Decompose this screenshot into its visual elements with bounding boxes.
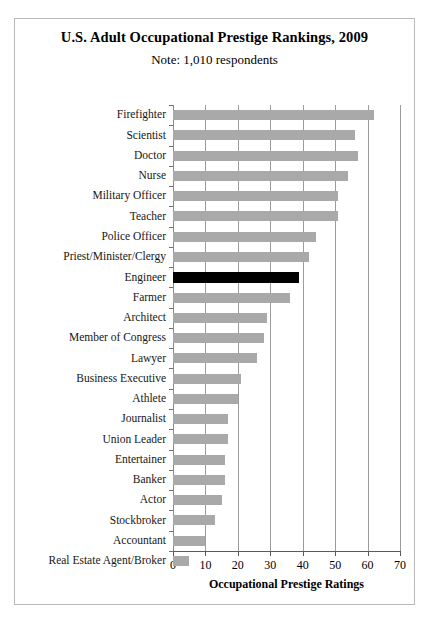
- bar-row: Firefighter: [173, 105, 400, 125]
- x-tick-label: 50: [329, 558, 341, 573]
- x-tick: [400, 551, 401, 556]
- bar-row: Nurse: [173, 166, 400, 186]
- category-label: Business Executive: [76, 373, 166, 385]
- bar-row: Engineer: [173, 267, 400, 287]
- bar-row: Entertainer: [173, 450, 400, 470]
- x-tick-label: 40: [297, 558, 309, 573]
- bar: [173, 434, 228, 444]
- y-tick: [169, 146, 173, 147]
- bar: [173, 151, 358, 161]
- x-tick: [303, 551, 304, 556]
- y-tick: [169, 267, 173, 268]
- y-tick: [169, 166, 173, 167]
- bar: [173, 414, 228, 424]
- plot-area: FirefighterScientistDoctorNurseMilitary …: [173, 105, 400, 551]
- bar: [173, 475, 225, 485]
- bar-row: Athlete: [173, 389, 400, 409]
- y-tick: [169, 125, 173, 126]
- y-tick: [169, 308, 173, 309]
- bar: [173, 313, 267, 323]
- bar: [173, 394, 238, 404]
- bar-rows: FirefighterScientistDoctorNurseMilitary …: [173, 105, 400, 551]
- y-tick: [169, 429, 173, 430]
- y-tick: [169, 531, 173, 532]
- bar: [173, 455, 225, 465]
- x-tick: [205, 551, 206, 556]
- x-tick-label: 30: [264, 558, 276, 573]
- bar-row: Banker: [173, 470, 400, 490]
- y-tick: [169, 450, 173, 451]
- category-label: Doctor: [134, 150, 166, 162]
- bar-row: Journalist: [173, 409, 400, 429]
- category-label: Military Officer: [92, 190, 166, 202]
- bar: [173, 191, 338, 201]
- y-tick: [169, 389, 173, 390]
- bar: [173, 495, 222, 505]
- y-tick: [169, 227, 173, 228]
- x-tick: [238, 551, 239, 556]
- category-label: Engineer: [124, 272, 166, 284]
- category-label: Athlete: [132, 393, 166, 405]
- bar-row: Military Officer: [173, 186, 400, 206]
- y-tick: [169, 510, 173, 511]
- bar-row: Business Executive: [173, 368, 400, 388]
- bar-row: Police Officer: [173, 227, 400, 247]
- x-axis-label: Occupational Prestige Ratings: [173, 577, 400, 592]
- category-label: Architect: [123, 312, 166, 324]
- y-tick: [169, 348, 173, 349]
- bar-row: Architect: [173, 308, 400, 328]
- category-label: Accountant: [113, 535, 166, 547]
- x-tick-label: 10: [199, 558, 211, 573]
- y-tick: [169, 247, 173, 248]
- category-label: Stockbroker: [110, 515, 166, 527]
- bar: [173, 130, 355, 140]
- bar-row: Actor: [173, 490, 400, 510]
- bar: [173, 374, 241, 384]
- y-tick: [169, 368, 173, 369]
- bar-row: Priest/Minister/Clergy: [173, 247, 400, 267]
- y-tick: [169, 409, 173, 410]
- bar-row: Accountant: [173, 531, 400, 551]
- x-tick-label: 60: [362, 558, 374, 573]
- y-tick: [169, 206, 173, 207]
- bar: [173, 536, 205, 546]
- bar-row: Member of Congress: [173, 328, 400, 348]
- bar-row: Doctor: [173, 146, 400, 166]
- bar: [173, 211, 338, 221]
- category-label: Actor: [140, 494, 166, 506]
- x-tick: [335, 551, 336, 556]
- y-tick: [169, 186, 173, 187]
- bar: [173, 232, 316, 242]
- y-tick: [169, 105, 173, 106]
- bar-row: Scientist: [173, 125, 400, 145]
- category-label: Member of Congress: [69, 332, 166, 344]
- x-tick: [270, 551, 271, 556]
- chart-figure: U.S. Adult Occupational Prestige Ranking…: [14, 18, 415, 605]
- y-tick: [169, 328, 173, 329]
- y-tick: [169, 490, 173, 491]
- category-label: Banker: [133, 474, 166, 486]
- bar: [173, 353, 257, 363]
- y-tick: [169, 470, 173, 471]
- bar: [173, 171, 348, 181]
- x-tick-label: 20: [232, 558, 244, 573]
- bar: [173, 252, 309, 262]
- category-label: Scientist: [126, 130, 166, 142]
- category-label: Farmer: [133, 292, 166, 304]
- bar-row: Farmer: [173, 287, 400, 307]
- bar: [173, 110, 374, 120]
- category-label: Police Officer: [101, 231, 166, 243]
- category-label: Nurse: [139, 170, 166, 182]
- bar-row: Stockbroker: [173, 510, 400, 530]
- category-label: Lawyer: [131, 353, 166, 365]
- category-label: Journalist: [121, 413, 166, 425]
- x-tick: [368, 551, 369, 556]
- category-label: Firefighter: [117, 109, 166, 121]
- bar-row: Teacher: [173, 206, 400, 226]
- bar: [173, 515, 215, 525]
- bar: [173, 333, 264, 343]
- category-label: Priest/Minister/Clergy: [63, 251, 166, 263]
- bar: [173, 556, 189, 566]
- y-tick: [169, 287, 173, 288]
- gridline-70: [400, 105, 401, 551]
